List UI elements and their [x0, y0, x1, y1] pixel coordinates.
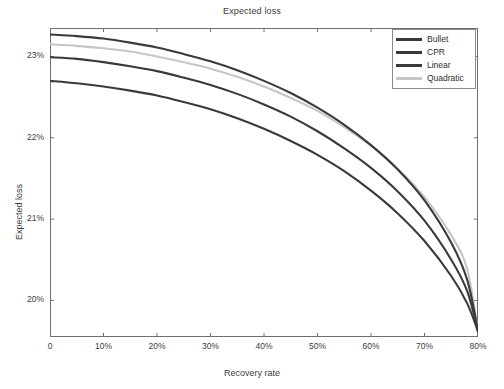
x-tick-label: 50%: [298, 341, 338, 351]
x-tick-label: 20%: [137, 341, 177, 351]
y-tick-label: 20%: [2, 294, 44, 304]
series-line-linear: [50, 57, 478, 331]
legend-line-swatch: [396, 77, 422, 80]
chart-legend: BulletCPRLinearQuadratic: [392, 29, 476, 89]
legend-item-label: Linear: [427, 59, 451, 72]
chart-title: Expected loss: [0, 6, 504, 16]
legend-line-swatch: [396, 51, 422, 54]
x-tick-label: 60%: [351, 341, 391, 351]
y-tick-label: 23%: [2, 50, 44, 60]
x-tick-label: 80%: [458, 341, 498, 351]
series-line-cpr: [50, 81, 478, 331]
x-tick-label: 40%: [244, 341, 284, 351]
x-tick-label: 0: [30, 341, 70, 351]
legend-item-label: CPR: [427, 46, 445, 59]
x-axis-title: Recovery rate: [0, 368, 504, 378]
legend-item-quadratic: Quadratic: [396, 72, 471, 85]
legend-item-label: Quadratic: [427, 72, 464, 85]
legend-line-swatch: [396, 38, 422, 41]
y-axis-title: Expected loss: [14, 184, 24, 240]
legend-item-linear: Linear: [396, 59, 471, 72]
x-tick-label: 10%: [84, 341, 124, 351]
chart-figure: Expected loss 23%22%21%20% 010%20%30%40%…: [0, 0, 504, 389]
legend-item-bullet: Bullet: [396, 33, 471, 46]
legend-item-cpr: CPR: [396, 46, 471, 59]
x-tick-label: 70%: [405, 341, 445, 351]
x-tick-label: 30%: [191, 341, 231, 351]
legend-line-swatch: [396, 64, 422, 67]
y-tick-label: 22%: [2, 132, 44, 142]
legend-item-label: Bullet: [427, 33, 448, 46]
